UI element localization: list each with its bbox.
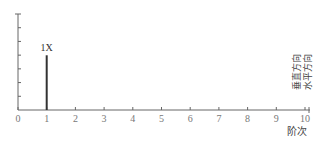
legend-entry: 水平方向: [302, 54, 313, 90]
x-tick-label: 4: [130, 113, 135, 124]
x-tick-label: 5: [159, 113, 164, 124]
x-tick-label: 3: [102, 113, 107, 124]
bar-annotation: 1X: [41, 42, 54, 53]
x-tick-label: 10: [300, 113, 310, 124]
x-tick-label: 0: [16, 113, 21, 124]
x-tick-label: 1: [44, 113, 49, 124]
order-spectrum-chart: 012345678910阶次1X垂直方向水平方向: [0, 0, 325, 150]
x-tick-label: 9: [274, 113, 279, 124]
x-tick-label: 6: [188, 113, 193, 124]
x-axis-label: 阶次: [287, 125, 307, 137]
legend-entry: 垂直方向: [291, 54, 302, 90]
x-tick-label: 8: [245, 113, 250, 124]
x-tick-label: 7: [216, 113, 221, 124]
x-tick-label: 2: [73, 113, 78, 124]
